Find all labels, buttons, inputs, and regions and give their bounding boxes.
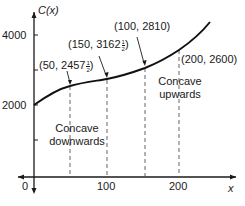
region-label-concave-up: Concave upwards: [155, 75, 205, 101]
y-axis-arrow-down-icon: [32, 188, 37, 194]
annotation-point-150: (150, 316212): [68, 38, 129, 52]
annotation-a1-text: (50, 2457: [39, 59, 85, 71]
annotation-point-100: (100, 2810): [114, 20, 170, 32]
pointer-a3-arrowhead-icon: [142, 60, 146, 66]
y-axis-label-symbol: C: [38, 4, 46, 16]
annotation-a2-text: (150, 3162: [68, 38, 121, 50]
annotation-a2-suffix: ): [125, 38, 129, 50]
x-tick-label-100: 100: [97, 180, 115, 192]
pointer-a1-arrowhead-icon: [68, 80, 72, 85]
region-up-line1: Concave: [155, 75, 205, 88]
region-down-line1: Concave: [46, 122, 108, 135]
y-axis-arrow-up-icon: [32, 12, 37, 18]
y-axis-label: C(x): [38, 4, 59, 16]
annotation-point-50: (50, 245712): [39, 59, 94, 73]
pointer-a2-arrowhead-icon: [105, 72, 109, 78]
x-axis-arrow-left-icon: [18, 175, 24, 180]
region-label-concave-down: Concave downwards: [46, 122, 108, 148]
x-axis-label: x: [228, 182, 234, 194]
pointer-a3: [137, 37, 144, 63]
y-tick-label-2000: 2000: [2, 99, 26, 111]
x-tick-label-200: 200: [169, 180, 187, 192]
pointer-a2: [99, 56, 106, 75]
y-tick-label-4000: 4000: [2, 29, 26, 41]
y-axis-label-arg: (x): [46, 4, 59, 16]
x-axis-arrow-right-icon: [230, 175, 236, 180]
region-down-line2: downwards: [46, 135, 108, 148]
annotation-point-200: (200, 2600): [181, 53, 237, 65]
annotation-a1-suffix: ): [90, 59, 94, 71]
region-up-line2: upwards: [155, 88, 205, 101]
origin-label: 0: [22, 180, 28, 192]
